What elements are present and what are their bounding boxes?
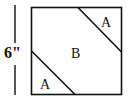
square-diagram: 6" A B A bbox=[0, 0, 128, 101]
region-label-a-top: A bbox=[101, 15, 112, 30]
region-label-a-bottom: A bbox=[40, 77, 51, 92]
region-label-b: B bbox=[71, 46, 80, 61]
top-diagonal bbox=[78, 8, 122, 53]
bottom-diagonal bbox=[32, 51, 76, 95]
dimension-label: 6" bbox=[4, 44, 21, 61]
